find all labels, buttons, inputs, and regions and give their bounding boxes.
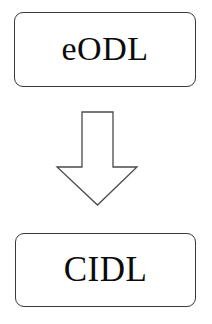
node-box-source[interactable]: eODL [14,12,196,87]
node-box-target[interactable]: CIDL [15,233,196,307]
node-label-target: CIDL [64,252,148,287]
node-label-source: eODL [62,32,149,66]
down-arrow-shape [57,112,137,205]
flow-diagram: eODL CIDL [0,0,212,324]
